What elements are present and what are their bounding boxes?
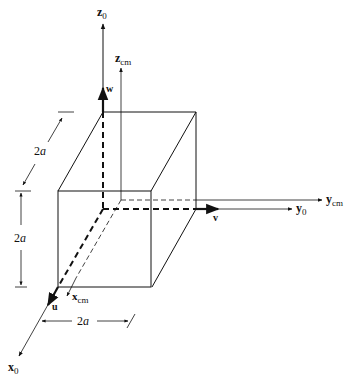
- ycm-axis-label: ycm: [326, 193, 343, 205]
- hidden-edges: [58, 112, 196, 287]
- xcm-axis-label: xcm: [72, 291, 89, 302]
- diagram-canvas: [0, 0, 351, 379]
- z0-axis-label: z0: [97, 6, 107, 18]
- w-vector-label: w: [106, 84, 113, 94]
- u-vector-label: u: [52, 302, 58, 312]
- zcm-axis-label: zcm: [115, 52, 131, 64]
- height-dimension-label: 2a: [14, 232, 26, 244]
- v-vector-label: v: [213, 213, 218, 223]
- y0-axis-label: y0: [296, 202, 307, 214]
- depth-dimension-label: 2a: [34, 145, 46, 157]
- width-dimension-label: 2a: [77, 315, 89, 327]
- box: [58, 112, 196, 287]
- x0-axis-label: x0: [8, 361, 19, 373]
